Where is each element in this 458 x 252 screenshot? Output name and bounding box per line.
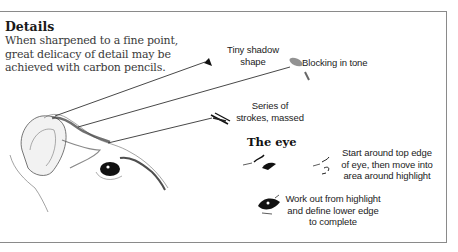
leader-line-tiny-shadow — [55, 62, 205, 116]
eye-step2-mark — [313, 157, 329, 174]
blocking-stroke-mark — [305, 72, 309, 80]
step-line: and define lower edge — [279, 205, 387, 217]
cat-illustration — [0, 0, 458, 252]
step-line: Start around top edge — [335, 147, 439, 159]
callout-series: Series of strokes, massed — [226, 100, 314, 123]
callout-line: strokes, massed — [226, 112, 314, 124]
eye-step1-mark — [243, 155, 276, 170]
eye-step-start: Start around top edge of eye, then move … — [335, 147, 439, 182]
step-line: Work out from highlight — [279, 193, 387, 205]
callout-line: Tiny shadow — [218, 44, 288, 56]
step-line: area around highlight — [335, 170, 439, 182]
callout-blocking: Blocking in tone — [302, 57, 402, 69]
callout-line: Series of — [226, 100, 314, 112]
leader-line-series — [108, 118, 212, 143]
callout-line: shape — [218, 56, 288, 68]
eye-section-title: The eye — [247, 135, 297, 149]
eye-step3-mark — [258, 195, 280, 214]
step-line: of eye, then move into — [335, 159, 439, 171]
step-line: to complete — [279, 216, 387, 228]
callout-line: Blocking in tone — [302, 57, 402, 69]
eye-step-complete: Work out from highlight and define lower… — [279, 193, 387, 228]
cat-head-drawing — [10, 114, 168, 212]
tiny-shadow-mark — [204, 58, 212, 66]
callout-tiny-shadow: Tiny shadow shape — [218, 44, 288, 67]
